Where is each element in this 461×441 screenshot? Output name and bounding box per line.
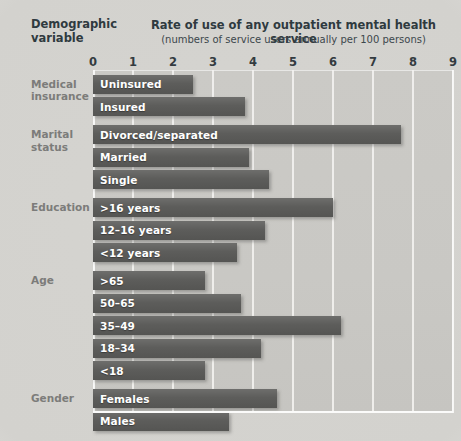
bar-row: Insured — [93, 97, 453, 116]
bar-row: <12 years — [93, 243, 453, 262]
bar-label: 12–16 years — [100, 221, 172, 240]
bar-label: Divorced/separated — [100, 125, 218, 144]
demographic-variable-heading-line2: variable — [31, 32, 126, 46]
bar-label: Females — [100, 389, 150, 408]
bar-label: Males — [100, 412, 135, 431]
bar-row: Married — [93, 148, 453, 167]
group-label-line1: Age — [31, 274, 93, 287]
bar-label: Insured — [100, 97, 146, 116]
bar-label: >16 years — [100, 198, 160, 217]
bar-label: Uninsured — [100, 75, 162, 94]
bar-label: 18–34 — [100, 339, 135, 358]
x-tick-4: 4 — [240, 55, 266, 69]
bar-rows: UninsuredInsuredDivorced/separatedMarrie… — [93, 70, 453, 413]
bar-row: >16 years — [93, 198, 453, 217]
bar-label: <12 years — [100, 243, 160, 262]
group-label-line1: Medical — [31, 78, 93, 91]
x-axis-baseline — [93, 411, 453, 413]
chart-figure: Demographic variable Rate of use of any … — [0, 0, 461, 441]
bar-row: <18 — [93, 361, 453, 380]
bar-label: 50–65 — [100, 294, 135, 313]
x-tick-3: 3 — [200, 55, 226, 69]
bar-row: Uninsured — [93, 75, 453, 94]
bar-label: Married — [100, 148, 147, 167]
bar-row: >65 — [93, 271, 453, 290]
bar-label: 35–49 — [100, 316, 135, 335]
x-tick-0: 0 — [80, 55, 106, 69]
bar-label: Single — [100, 170, 137, 189]
group-label-line2: status — [31, 141, 93, 154]
group-label-education: Education — [31, 201, 93, 214]
plot-area: UninsuredInsuredDivorced/separatedMarrie… — [93, 70, 453, 413]
group-label-line1: Gender — [31, 392, 93, 405]
x-tick-7: 7 — [360, 55, 386, 69]
bar-label: <18 — [100, 361, 124, 380]
group-label-gender: Gender — [31, 392, 93, 405]
bar-row: 35–49 — [93, 316, 453, 335]
x-tick-2: 2 — [160, 55, 186, 69]
group-label-line1: Education — [31, 201, 93, 214]
bar-row: Divorced/separated — [93, 125, 453, 144]
bar-row: Males — [93, 412, 453, 431]
group-label-medical-insurance: Medicalinsurance — [31, 78, 93, 103]
x-tick-8: 8 — [400, 55, 426, 69]
x-tick-9: 9 — [440, 55, 461, 69]
x-tick-6: 6 — [320, 55, 346, 69]
x-tick-1: 1 — [120, 55, 146, 69]
bar-row: Females — [93, 389, 453, 408]
demographic-variable-heading: Demographic variable — [31, 18, 126, 45]
x-axis-tick-labels: 0123456789 — [0, 55, 461, 70]
bar-label: >65 — [100, 271, 124, 290]
group-label-marital-status: Maritalstatus — [31, 128, 93, 153]
group-label-age: Age — [31, 274, 93, 287]
group-label-line2: insurance — [31, 90, 93, 103]
demographic-variable-heading-line1: Demographic — [31, 18, 126, 32]
bar-row: 12–16 years — [93, 221, 453, 240]
chart-subtitle: (numbers of service users annually per 1… — [131, 33, 456, 46]
bar-row: 50–65 — [93, 294, 453, 313]
bar-row: Single — [93, 170, 453, 189]
bar-row: 18–34 — [93, 339, 453, 358]
x-tick-5: 5 — [280, 55, 306, 69]
group-label-line1: Marital — [31, 128, 93, 141]
